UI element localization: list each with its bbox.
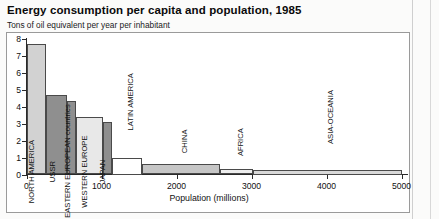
x-axis-tick-label: 2000 (167, 181, 186, 191)
page-edge-rule-right (430, 0, 431, 219)
chart-subtitle: Tons of oil equivalent per year per inha… (7, 20, 170, 30)
y-axis-tick-label: 0 (7, 170, 21, 180)
bar-label: CHINA (181, 130, 189, 154)
chart-panel: 012345678010002000300040005000NORTH AMER… (6, 32, 410, 213)
bar-label: JAPAN (100, 160, 108, 184)
y-axis-tick-label: 6 (7, 68, 21, 78)
x-axis-tick-label: 3000 (242, 181, 261, 191)
x-axis-tick (177, 174, 178, 179)
x-axis-tick-label: 4000 (317, 181, 336, 191)
bar-label: USSR (49, 161, 57, 182)
y-axis-tick-label: 2 (7, 136, 21, 146)
x-axis-title: Population (millions) (7, 193, 411, 203)
y-axis-tick-label: 5 (7, 85, 21, 95)
y-axis-tick-label: 1 (7, 153, 21, 163)
bar-label: AFRICA (237, 129, 245, 157)
bar-japan: JAPAN (103, 122, 112, 175)
bar-latin-america: LATIN AMERICA (112, 158, 142, 175)
y-axis-tick-label: 3 (7, 119, 21, 129)
bar-africa: AFRICA (220, 169, 252, 174)
figure-page: Energy consumption per capita and popula… (0, 0, 439, 219)
bar-label: LATIN AMERICA (127, 73, 135, 130)
bar-other-eastern-european-countries: Other EASTERN EUROPEAN countries (67, 101, 76, 174)
y-axis-tick (22, 39, 27, 40)
bar-asia-oceania: ASIA-OCEANIA (253, 170, 402, 174)
y-axis-tick-label: 8 (7, 34, 21, 44)
x-axis-tick (327, 174, 328, 179)
bar-north-america: NORTH AMERICA (27, 44, 47, 175)
page-edge-rule-left (412, 0, 413, 219)
plot-area: 012345678010002000300040005000NORTH AMER… (7, 33, 411, 214)
x-axis-tick (402, 174, 403, 179)
bar-label: ASIA-OCEANIA (327, 90, 335, 144)
y-axis-tick-label: 7 (7, 51, 21, 61)
x-axis-tick-label: 5000 (392, 181, 411, 191)
chart-title: Energy consumption per capita and popula… (7, 4, 301, 16)
x-axis-tick (252, 174, 253, 179)
y-axis-tick-label: 4 (7, 102, 21, 112)
bar-china: CHINA (142, 164, 221, 174)
